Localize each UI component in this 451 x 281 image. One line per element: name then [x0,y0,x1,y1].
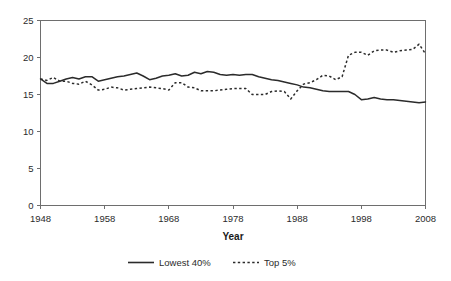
x-tick-label: 1968 [158,213,179,224]
y-tick-label: 0 [28,200,33,211]
y-tick-label: 5 [28,163,33,174]
chart-container: 0510152025 1948195819681978198819982008 … [0,0,451,281]
x-tick-label: 1998 [351,213,372,224]
x-axis-title: Year [222,231,243,242]
x-tick-label: 1988 [287,213,308,224]
y-tick-label: 10 [23,126,34,137]
line-chart: 0510152025 1948195819681978198819982008 … [0,0,451,281]
x-tick-label: 1978 [222,213,243,224]
y-tick-label: 15 [23,89,34,100]
x-tick-label: 1948 [30,213,51,224]
y-tick-label: 20 [23,52,34,63]
x-tick-label: 1958 [94,213,115,224]
legend-label: Top 5% [264,257,296,268]
legend-label: Lowest 40% [159,257,211,268]
x-tick-label: 2008 [415,213,436,224]
y-tick-label: 25 [23,15,34,26]
